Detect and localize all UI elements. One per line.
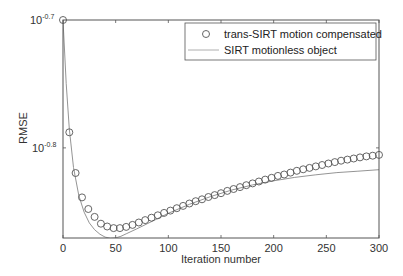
data-point-marker	[312, 163, 319, 170]
data-point-marker	[325, 160, 332, 167]
data-point-marker	[338, 157, 345, 164]
data-point-marker	[85, 206, 92, 213]
xtick-label: 250	[317, 242, 335, 254]
data-point-marker	[357, 154, 364, 161]
data-point-marker	[274, 172, 281, 179]
data-point-marker	[104, 223, 111, 230]
legend-label-trans-sirt: trans-SIRT motion compensated	[224, 28, 382, 40]
data-point-marker	[167, 207, 174, 214]
data-point-marker	[91, 213, 98, 220]
data-point-marker	[331, 159, 338, 166]
data-point-marker	[319, 162, 326, 169]
ytick-label-mid: 10-0.8	[32, 141, 56, 154]
xtick-label: 50	[110, 242, 122, 254]
data-point-marker	[350, 155, 357, 162]
data-point-marker	[300, 166, 307, 173]
legend-label-sirt-motionless: SIRT motionless object	[224, 44, 337, 56]
y-axis-label: RMSE	[17, 112, 29, 144]
rmse-chart: 10-0.7 10-0.8 050100150200250300 Iterati…	[0, 0, 403, 276]
data-point-marker	[306, 164, 313, 171]
xtick-label: 200	[264, 242, 282, 254]
data-point-marker	[344, 156, 351, 163]
data-point-marker	[135, 219, 142, 226]
legend: trans-SIRT motion compensated SIRT motio…	[185, 23, 382, 60]
xtick-label: 100	[159, 242, 177, 254]
xtick-label: 0	[60, 242, 66, 254]
data-point-marker	[72, 170, 79, 177]
x-axis-label: Iteration number	[181, 253, 261, 265]
xtick-label: 300	[370, 242, 388, 254]
ytick-label-top: 10-0.7	[30, 13, 54, 26]
data-point-marker	[293, 167, 300, 174]
